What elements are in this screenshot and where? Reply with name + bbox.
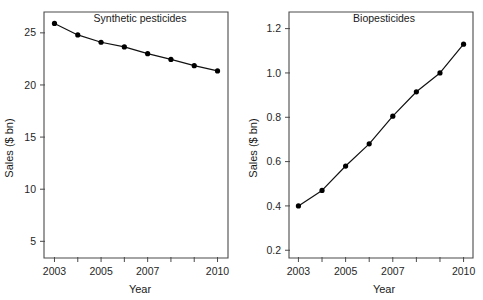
y-tick-label: 0.8 bbox=[266, 111, 281, 123]
x-axis-0: 2003200520072010 bbox=[43, 257, 230, 277]
panel-synthetic-pesticides: 510152025 2003200520072010 Synthetic pes… bbox=[0, 0, 241, 300]
data-point bbox=[343, 163, 348, 168]
x-tick-label: 2007 bbox=[136, 265, 160, 277]
y-tick-label: 5 bbox=[30, 235, 36, 247]
y-axis-1: 0.20.40.60.81.01.2 bbox=[266, 22, 290, 256]
data-point bbox=[98, 40, 103, 45]
y-tick-label: 25 bbox=[24, 26, 36, 38]
plot-box bbox=[289, 12, 473, 258]
data-point bbox=[52, 21, 57, 26]
x-tick-label: 2005 bbox=[89, 265, 113, 277]
x-axis-title: Year bbox=[129, 283, 152, 295]
plot-box bbox=[44, 12, 228, 258]
data-point bbox=[414, 89, 419, 94]
x-tick-label: 2007 bbox=[381, 265, 405, 277]
y-tick-label: 10 bbox=[24, 183, 36, 195]
y-tick-label: 0.6 bbox=[266, 155, 281, 167]
y-tick-label: 20 bbox=[24, 79, 36, 91]
plot-frame-0 bbox=[44, 12, 228, 258]
data-point bbox=[192, 63, 197, 68]
y-tick-label: 15 bbox=[24, 131, 36, 143]
data-point bbox=[319, 188, 324, 193]
data-point bbox=[390, 114, 395, 119]
x-tick-label: 2010 bbox=[452, 265, 476, 277]
chart-biopesticides: 0.20.40.60.81.01.2 2003200520072010 Biop… bbox=[241, 0, 482, 300]
data-point bbox=[367, 141, 372, 146]
series-line-1 bbox=[298, 44, 463, 206]
two-panel-figure: 510152025 2003200520072010 Synthetic pes… bbox=[0, 0, 483, 300]
x-axis-title: Year bbox=[373, 283, 396, 295]
panel-title: Synthetic pesticides bbox=[94, 12, 187, 24]
y-tick-label: 1.2 bbox=[266, 22, 281, 34]
x-axis-1: 2003200520072010 bbox=[287, 257, 476, 277]
data-point bbox=[168, 57, 173, 62]
series-markers-1 bbox=[296, 42, 466, 209]
data-point bbox=[296, 203, 301, 208]
chart-synthetic-pesticides: 510152025 2003200520072010 Synthetic pes… bbox=[0, 0, 241, 300]
y-axis-0: 510152025 bbox=[24, 26, 45, 246]
y-tick-label: 1.0 bbox=[266, 67, 281, 79]
x-tick-label: 2005 bbox=[334, 265, 358, 277]
y-tick-label: 0.4 bbox=[266, 200, 281, 212]
data-point bbox=[461, 42, 466, 47]
data-point bbox=[122, 44, 127, 49]
y-axis-title: Sales ($ bn) bbox=[247, 118, 259, 177]
panel-biopesticides: 0.20.40.60.81.01.2 2003200520072010 Biop… bbox=[241, 0, 482, 300]
y-tick-label: 0.2 bbox=[266, 244, 281, 256]
data-point bbox=[145, 51, 150, 56]
data-point bbox=[75, 32, 80, 37]
panel-title: Biopesticides bbox=[353, 12, 415, 24]
plot-frame-1 bbox=[289, 12, 473, 258]
series-markers-0 bbox=[52, 21, 220, 74]
y-axis-title: Sales ($ bn) bbox=[3, 118, 15, 177]
data-point bbox=[437, 70, 442, 75]
x-tick-label: 2003 bbox=[43, 265, 67, 277]
x-tick-label: 2010 bbox=[206, 265, 230, 277]
data-point bbox=[215, 68, 220, 73]
data-line bbox=[298, 44, 463, 206]
x-tick-label: 2003 bbox=[287, 265, 311, 277]
